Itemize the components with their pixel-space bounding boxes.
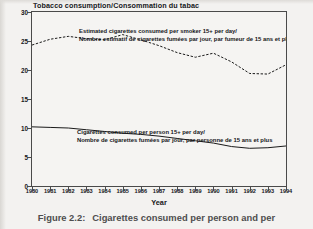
annotation-lower: Cigarettes consumed per person 15+ per d… (77, 128, 272, 144)
annotation-upper-line1: Estimated cigarettes consumed per smoker… (79, 27, 286, 35)
x-tick-mark (195, 187, 196, 191)
annotation-lower-line1: Cigarettes consumed per person 15+ per d… (77, 128, 272, 136)
x-tick-mark (232, 187, 233, 191)
x-tick-mark (159, 187, 160, 191)
x-tick-mark (286, 187, 287, 191)
figure-root: Tobacco consumption/Consommation du taba… (0, 0, 313, 229)
x-tick-mark (123, 187, 124, 191)
x-tick-mark (105, 187, 106, 191)
x-tick-mark (250, 187, 251, 191)
x-tick-mark (177, 187, 178, 191)
plot-inner: Estimated cigarettes consumed per smoker… (32, 12, 286, 186)
x-tick-mark (68, 187, 69, 191)
x-tick-mark (50, 187, 51, 191)
chart-title: Tobacco consumption/Consommation du taba… (33, 1, 199, 10)
plot-area: Estimated cigarettes consumed per smoker… (31, 11, 287, 187)
x-tick-mark (213, 187, 214, 191)
annotation-upper: Estimated cigarettes consumed per smoker… (79, 27, 286, 43)
x-tick-mark (32, 187, 33, 191)
figure-caption: Figure 2.2:Cigarettes consumed per perso… (0, 212, 313, 223)
figure-caption-text: Cigarettes consumed per person and per (92, 212, 275, 223)
figure-caption-number: Figure 2.2: (38, 212, 85, 223)
x-tick-mark (268, 187, 269, 191)
x-axis-title: Year (31, 198, 287, 207)
x-tick-mark (141, 187, 142, 191)
annotation-lower-line2: Nombre de cigarettes fumées par jour, pa… (77, 136, 272, 144)
annotation-upper-line2: Nombre estimatif de cigarettes fumées pa… (79, 35, 286, 43)
y-axis: 051015202530 (0, 11, 31, 187)
x-tick-mark (86, 187, 87, 191)
